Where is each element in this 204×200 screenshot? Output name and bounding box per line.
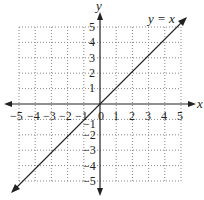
svg-text:−3: −3 [43, 109, 56, 123]
svg-text:−2: −2 [59, 109, 72, 123]
svg-text:−5: −5 [10, 109, 23, 123]
svg-text:5: 5 [89, 20, 95, 34]
coordinate-plane-chart: x y y = x −5 −4 −3 −2 −1 0 1 2 3 4 5 5 4… [0, 0, 204, 200]
y-axis-up-arrow-icon [97, 12, 103, 20]
svg-text:1: 1 [89, 81, 95, 95]
x-axis-right-arrow-icon [188, 101, 196, 107]
y-axis-label: y [94, 0, 102, 13]
svg-text:−5: −5 [83, 174, 96, 188]
svg-text:2: 2 [89, 66, 95, 80]
svg-text:4: 4 [89, 35, 95, 49]
x-axis-left-arrow-icon [4, 101, 12, 107]
svg-text:4: 4 [161, 109, 167, 123]
svg-text:2: 2 [129, 109, 135, 123]
svg-text:−4: −4 [27, 109, 40, 123]
svg-text:−3: −3 [83, 143, 96, 157]
svg-text:0: 0 [98, 109, 104, 123]
line-equation-label: y = x [146, 11, 175, 26]
svg-text:3: 3 [89, 51, 95, 65]
chart-svg: x y y = x −5 −4 −3 −2 −1 0 1 2 3 4 5 5 4… [0, 0, 204, 200]
svg-text:−2: −2 [83, 128, 96, 142]
svg-text:−4: −4 [83, 159, 96, 173]
svg-text:5: 5 [177, 109, 183, 123]
line-y-equals-x [11, 17, 187, 193]
svg-text:1: 1 [113, 109, 119, 123]
y-axis-down-arrow-icon [97, 188, 103, 196]
x-axis-label: x [196, 96, 203, 111]
svg-text:3: 3 [145, 109, 151, 123]
x-tick-labels: −5 −4 −3 −2 −1 0 1 2 3 4 5 [10, 109, 183, 123]
